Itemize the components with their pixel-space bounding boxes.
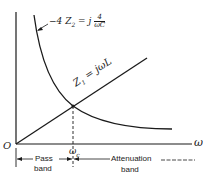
- pass-band-label-line2: band: [34, 165, 52, 173]
- cap-label-eq: = j: [75, 16, 91, 26]
- origin-label: O: [3, 141, 11, 151]
- cap-label-prefix: −4 Z: [49, 16, 71, 26]
- capacitive-curve-label: −4 Z2 = j 4 ωC: [49, 14, 105, 29]
- cutoff-frequency-label: ωc: [69, 147, 80, 158]
- arrowhead-left: [17, 157, 22, 161]
- frac-denominator: ωC: [94, 22, 105, 29]
- x-axis-label: ω: [194, 137, 203, 148]
- cap-label-fraction: 4 ωC: [94, 14, 105, 29]
- cutoff-sub: c: [76, 151, 79, 158]
- atten-band-label-line2: band: [121, 166, 139, 174]
- pass-band-label-line1: Pass: [35, 155, 53, 163]
- atten-band-label-line1: Attenuation: [111, 155, 151, 163]
